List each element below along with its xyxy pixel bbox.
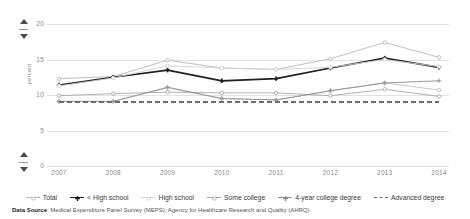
x-axis-tick-label: 2014 xyxy=(431,169,446,176)
legend-item-label: Some college xyxy=(224,194,265,201)
legend-item[interactable]: < High school xyxy=(70,194,128,201)
chart-legend[interactable]: Total< High schoolHigh schoolSome colleg… xyxy=(0,190,470,204)
series-marker xyxy=(329,94,332,97)
series-marker xyxy=(329,66,332,69)
x-axis-tick-label: 2009 xyxy=(160,169,175,176)
series-marker xyxy=(166,90,169,93)
legend-swatch-icon xyxy=(278,194,292,201)
series-line xyxy=(59,89,439,96)
series-marker xyxy=(57,84,60,87)
legend-item-label: High school xyxy=(158,194,194,201)
series-marker xyxy=(437,65,440,68)
x-axis-tick-label: 2008 xyxy=(106,169,121,176)
legend-marker-icon xyxy=(283,195,287,199)
series-marker xyxy=(328,89,332,93)
series-marker xyxy=(437,79,441,83)
series-lines xyxy=(47,24,449,166)
series-line xyxy=(59,42,439,78)
legend-item-label: Advanced degree xyxy=(391,194,444,201)
series-marker xyxy=(274,68,277,71)
series-marker xyxy=(329,57,332,60)
legend-item[interactable]: Total xyxy=(26,194,57,201)
legend-item[interactable]: Advanced degree xyxy=(374,194,444,201)
series-marker xyxy=(57,94,60,97)
legend-swatch-icon xyxy=(207,194,221,201)
series-line xyxy=(59,58,439,85)
x-axis-tick-label: 2011 xyxy=(269,169,284,176)
y-axis-tick-label: 10 xyxy=(22,91,44,98)
legend-swatch-icon xyxy=(70,194,84,201)
series-marker xyxy=(274,91,277,94)
x-axis-tick-label: 2013 xyxy=(377,169,392,176)
x-axis-tick-labels: 20072008200920102011201220132014 xyxy=(47,169,449,181)
y-axis-tick-label: 5 xyxy=(22,127,44,134)
series-marker xyxy=(220,91,223,94)
series-marker xyxy=(437,95,440,98)
legend-marker-icon xyxy=(146,195,150,199)
data-source-text: Medical Expenditure Panel Survey (MEPS);… xyxy=(50,207,309,213)
series-marker xyxy=(220,96,224,100)
legend-swatch-icon xyxy=(374,194,388,201)
y-axis-tick-label: 0 xyxy=(22,162,44,169)
series-line xyxy=(59,83,439,101)
x-axis-tick-label: 2012 xyxy=(323,169,338,176)
series-marker xyxy=(383,81,387,85)
y-axis-tick-label: 15 xyxy=(22,56,44,63)
series-marker xyxy=(165,68,169,72)
series-marker xyxy=(383,88,386,91)
series-marker xyxy=(437,56,440,59)
series-marker xyxy=(112,92,115,95)
y-axis-tick-labels: 05101520 xyxy=(0,24,44,166)
x-axis-tick-label: 2007 xyxy=(51,169,66,176)
data-source-note: Data Source: Medical Expenditure Panel S… xyxy=(12,207,309,213)
legend-item[interactable]: High school xyxy=(141,194,194,201)
series-line xyxy=(59,81,439,102)
series-marker xyxy=(383,58,386,61)
data-source-label: Data Source xyxy=(12,207,47,213)
x-axis-tick-label: 2010 xyxy=(214,169,229,176)
legend-marker-icon xyxy=(31,195,35,199)
chart-page: percent 05101520 20072008200920102011201… xyxy=(0,0,470,219)
plot-area xyxy=(47,24,449,166)
series-marker xyxy=(57,77,60,80)
series-marker xyxy=(383,41,386,44)
y-axis-tick-label: 20 xyxy=(22,20,44,27)
legend-item[interactable]: Some college xyxy=(207,194,265,201)
legend-item-label: 4-year college degree xyxy=(295,194,361,201)
legend-marker-icon xyxy=(212,195,216,199)
legend-swatch-icon xyxy=(26,194,40,201)
series-marker xyxy=(166,64,169,67)
gridline xyxy=(47,166,449,167)
legend-item-label: < High school xyxy=(87,194,128,201)
legend-item-label: Total xyxy=(43,194,57,201)
legend-item[interactable]: 4-year college degree xyxy=(278,194,361,201)
series-marker xyxy=(220,79,224,83)
legend-swatch-icon xyxy=(141,194,155,201)
series-marker xyxy=(437,88,440,91)
legend-marker-icon xyxy=(75,195,79,199)
series-marker xyxy=(166,59,169,62)
series-line xyxy=(59,60,439,86)
series-marker xyxy=(274,76,278,80)
series-marker xyxy=(220,66,223,69)
series-marker xyxy=(112,76,115,79)
